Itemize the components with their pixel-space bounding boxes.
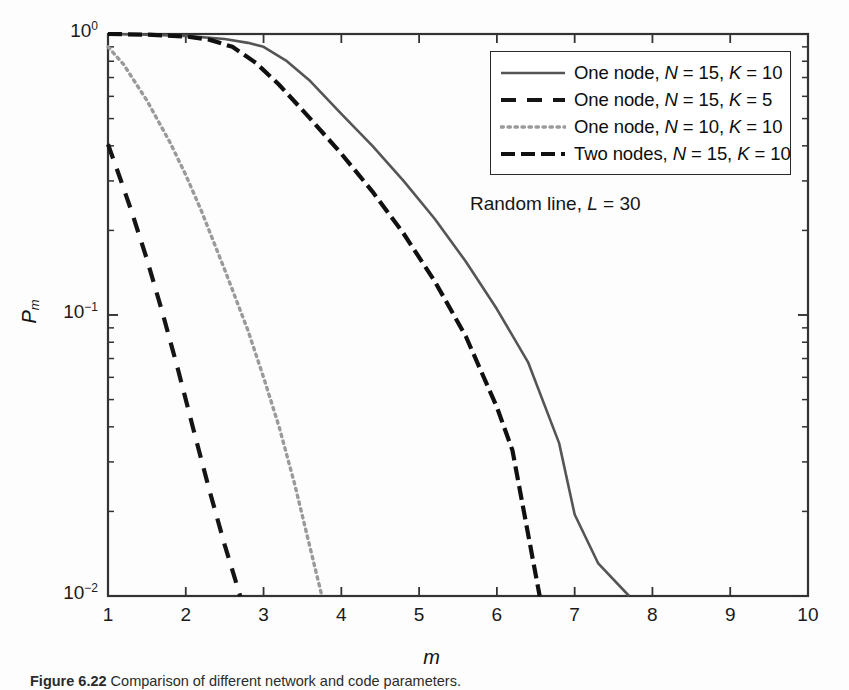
x-tick-label: 8 bbox=[622, 604, 682, 626]
legend-label: One node, N = 10, K = 10 bbox=[574, 116, 782, 138]
legend-entry: One node, N = 10, K = 10 bbox=[500, 113, 781, 140]
series-line-3 bbox=[108, 47, 322, 596]
x-tick-label: 6 bbox=[467, 604, 527, 626]
legend-line-sample-dotted bbox=[500, 119, 566, 135]
x-tick-label: 5 bbox=[389, 604, 449, 626]
legend-entry: One node, N = 15, K = 10 bbox=[500, 59, 781, 86]
x-tick-label: 4 bbox=[311, 604, 371, 626]
y-tick-label: 10−1 bbox=[30, 301, 98, 323]
y-tick-exponent: 0 bbox=[91, 19, 98, 33]
y-tick-exponent: −1 bbox=[84, 300, 98, 314]
x-tick-label: 2 bbox=[156, 604, 216, 626]
series-line-2 bbox=[108, 144, 240, 596]
plot-annotation: Random line, L = 30 bbox=[470, 193, 641, 215]
legend-line-sample-solid bbox=[500, 65, 566, 81]
x-tick-label: 9 bbox=[700, 604, 760, 626]
legend-label: One node, N = 15, K = 5 bbox=[574, 89, 772, 111]
x-tick-label: 1 bbox=[78, 604, 138, 626]
chart-legend: One node, N = 15, K = 10One node, N = 15… bbox=[490, 51, 791, 175]
y-tick-label: 10−2 bbox=[30, 582, 98, 604]
x-axis-label-text: m bbox=[409, 646, 440, 668]
figure-caption-text: Comparison of different network and code… bbox=[111, 673, 461, 689]
legend-line-sample-dashed bbox=[500, 92, 566, 108]
x-tick-label: 3 bbox=[234, 604, 294, 626]
y-tick-mantissa: 10 bbox=[63, 301, 84, 322]
legend-line-sample-dashdot bbox=[500, 146, 566, 162]
legend-label: Two nodes, N = 15, K = 10 bbox=[574, 143, 791, 165]
x-axis-label: m bbox=[0, 646, 849, 669]
annotation-suffix: = 30 bbox=[598, 193, 641, 214]
annotation-prefix: Random line, bbox=[470, 193, 587, 214]
series-line-4 bbox=[108, 34, 540, 596]
figure-container: Pm m Random line, L = 30 One node, N = 1… bbox=[0, 0, 849, 690]
y-tick-label: 100 bbox=[30, 20, 98, 42]
y-tick-mantissa: 10 bbox=[63, 582, 84, 603]
figure-caption: Figure 6.22 Comparison of different netw… bbox=[30, 673, 820, 690]
legend-entry: Two nodes, N = 15, K = 10 bbox=[500, 140, 781, 167]
y-tick-exponent: −2 bbox=[84, 581, 98, 595]
x-tick-label: 10 bbox=[778, 604, 838, 626]
legend-entry: One node, N = 15, K = 5 bbox=[500, 86, 781, 113]
annotation-symbol: L bbox=[587, 193, 598, 214]
legend-label: One node, N = 15, K = 10 bbox=[574, 62, 782, 84]
y-tick-mantissa: 10 bbox=[70, 20, 91, 41]
figure-caption-number: Figure 6.22 bbox=[30, 673, 107, 689]
x-tick-label: 7 bbox=[545, 604, 605, 626]
